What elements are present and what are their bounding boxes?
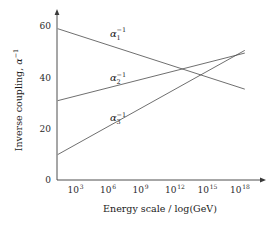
series-line bbox=[58, 51, 244, 155]
svg-text:3: 3 bbox=[117, 118, 121, 126]
svg-text:10: 10 bbox=[100, 185, 112, 195]
x-tick-labels-group: 103106109101210151018 bbox=[68, 183, 251, 196]
x-tick-label: 1018 bbox=[230, 183, 250, 196]
svg-text:10: 10 bbox=[133, 185, 145, 195]
svg-text:Energy scale / log(GeV): Energy scale / log(GeV) bbox=[103, 203, 217, 214]
series-line bbox=[58, 53, 244, 100]
svg-text:18: 18 bbox=[242, 183, 250, 190]
svg-text:−1: −1 bbox=[117, 26, 127, 34]
axes-group bbox=[55, 9, 266, 182]
series-line bbox=[58, 29, 244, 89]
x-tick-label: 1015 bbox=[198, 183, 218, 196]
svg-text:Inverse coupling, α−1: Inverse coupling, α−1 bbox=[12, 49, 24, 152]
y-tick-label: 40 bbox=[40, 73, 52, 83]
x-axis-title: Energy scale / log(GeV) bbox=[103, 203, 217, 214]
y-axis-title: Inverse coupling, α−1 bbox=[12, 49, 24, 152]
series-curves-group bbox=[58, 29, 244, 155]
y-tick-label: 60 bbox=[40, 21, 52, 31]
x-tick-label: 109 bbox=[133, 183, 149, 196]
svg-text:10: 10 bbox=[198, 185, 210, 195]
x-tick-label: 1012 bbox=[165, 183, 185, 196]
y-axis-arrow bbox=[55, 9, 60, 15]
svg-text:−1: −1 bbox=[117, 71, 127, 79]
y-tick-label: 20 bbox=[40, 124, 52, 134]
x-tick-label: 103 bbox=[68, 183, 84, 196]
x-axis-arrow bbox=[260, 178, 266, 183]
coupling-unification-figure: 0204060 103106109101210151018 α1−1α2−1α3… bbox=[0, 0, 272, 225]
y-tick-labels-group: 0204060 bbox=[40, 21, 52, 185]
svg-text:6: 6 bbox=[112, 183, 116, 190]
svg-text:12: 12 bbox=[177, 183, 185, 190]
plot-canvas: 0204060 103106109101210151018 α1−1α2−1α3… bbox=[0, 0, 272, 225]
svg-text:3: 3 bbox=[80, 183, 84, 190]
svg-text:10: 10 bbox=[230, 185, 242, 195]
series-annotations-group: α1−1α2−1α3−1 bbox=[110, 26, 126, 126]
svg-text:9: 9 bbox=[145, 183, 149, 190]
svg-text:2: 2 bbox=[117, 78, 121, 86]
x-tick-label: 106 bbox=[100, 183, 116, 196]
svg-text:−1: −1 bbox=[117, 111, 127, 119]
svg-text:10: 10 bbox=[165, 185, 177, 195]
svg-text:1: 1 bbox=[117, 34, 121, 42]
svg-text:15: 15 bbox=[210, 183, 218, 190]
svg-text:10: 10 bbox=[68, 185, 80, 195]
series-annotation: α1−1 bbox=[110, 26, 126, 42]
y-tick-label: 0 bbox=[45, 175, 51, 185]
